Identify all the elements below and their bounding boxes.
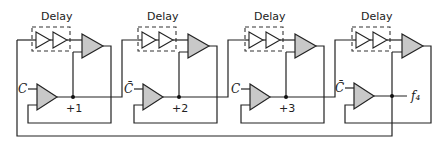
output-label: +2 [172, 102, 188, 115]
junction-dot [284, 95, 288, 99]
delay-buffer-icon [36, 32, 50, 48]
circuit-diagram: Delay C +1 Delay C̄ +2 Del [0, 0, 444, 145]
control-label: C̄ [335, 80, 344, 95]
stage-2: Delay C̄ +2 [124, 10, 245, 123]
amplifier-icon [188, 34, 209, 58]
delay-buffer-icon [53, 32, 67, 48]
delay-buffer-icon [373, 32, 387, 48]
amplifier-icon [295, 34, 316, 58]
control-label: C̄ [124, 81, 133, 96]
delay-buffer-icon [142, 32, 156, 48]
control-label: C [18, 82, 27, 96]
amplifier-icon [143, 84, 163, 110]
amplifier-icon [354, 83, 374, 109]
delay-label: Delay [41, 10, 73, 23]
stage-4: Delay C̄ f₄ [335, 10, 431, 123]
output-label: +3 [279, 102, 295, 115]
delay-label: Delay [361, 10, 393, 23]
amplifier-icon [402, 34, 423, 58]
amplifier-icon [82, 34, 103, 58]
delay-label: Delay [147, 10, 179, 23]
junction-dot [177, 95, 181, 99]
delay-buffer-icon [249, 32, 263, 48]
stage-3: Delay C +3 [231, 10, 352, 123]
control-label: C [231, 82, 240, 96]
junction-dot [390, 94, 394, 98]
delay-buffer-icon [266, 32, 280, 48]
output-label: +1 [66, 102, 82, 115]
amplifier-icon [37, 84, 57, 110]
junction-dot [71, 95, 75, 99]
delay-buffer-icon [356, 32, 370, 48]
delay-label: Delay [254, 10, 286, 23]
stage-1: Delay C +1 [17, 10, 138, 123]
output-label: f₄ [410, 89, 420, 103]
amplifier-icon [250, 84, 270, 110]
delay-buffer-icon [159, 32, 173, 48]
